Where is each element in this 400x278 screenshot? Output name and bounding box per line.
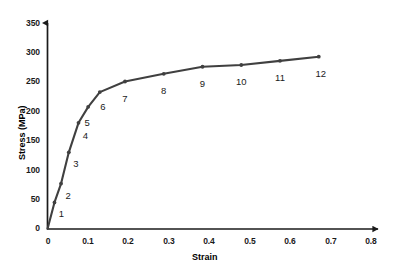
point-label-6: 6 — [95, 101, 111, 112]
x-tick-0.5: 0.5 — [236, 236, 264, 246]
data-point — [162, 72, 166, 76]
data-point — [123, 80, 127, 84]
point-label-11: 11 — [272, 72, 288, 83]
x-tick-0.3: 0.3 — [155, 236, 183, 246]
data-point — [59, 182, 63, 186]
stress-strain-chart: 350 300 250 200 150 100 50 0 0 0.1 0.2 0… — [0, 0, 400, 278]
point-label-1: 1 — [53, 208, 69, 219]
y-tick-0: 0 — [8, 223, 40, 233]
point-label-10: 10 — [233, 76, 249, 87]
x-tick-0.2: 0.2 — [114, 236, 142, 246]
data-point — [98, 90, 102, 94]
data-point — [201, 65, 205, 69]
x-tick-0.1: 0.1 — [74, 236, 102, 246]
y-tick-100: 100 — [8, 165, 40, 175]
point-label-8: 8 — [156, 85, 172, 96]
point-label-4: 4 — [78, 130, 94, 141]
y-tick-300: 300 — [8, 47, 40, 57]
data-point — [67, 150, 71, 154]
point-label-7: 7 — [117, 93, 133, 104]
x-tick-0.4: 0.4 — [195, 236, 223, 246]
point-label-2: 2 — [60, 190, 76, 201]
data-point — [239, 63, 243, 67]
point-label-5: 5 — [79, 117, 95, 128]
data-point — [53, 201, 57, 205]
point-label-9: 9 — [195, 78, 211, 89]
x-axis-title: Strain — [192, 252, 218, 262]
y-tick-250: 250 — [8, 76, 40, 86]
y-tick-50: 50 — [8, 194, 40, 204]
data-point — [278, 59, 282, 63]
point-label-12: 12 — [313, 68, 329, 79]
point-label-3: 3 — [68, 158, 84, 169]
x-tick-0.8: 0.8 — [357, 236, 385, 246]
y-axis-title: Stress (MPa) — [17, 105, 27, 160]
y-tick-350: 350 — [8, 18, 40, 28]
data-point — [317, 55, 321, 59]
x-tick-0.7: 0.7 — [317, 236, 345, 246]
x-tick-0.6: 0.6 — [276, 236, 304, 246]
x-tick-0: 0 — [34, 236, 62, 246]
data-point — [86, 105, 90, 109]
